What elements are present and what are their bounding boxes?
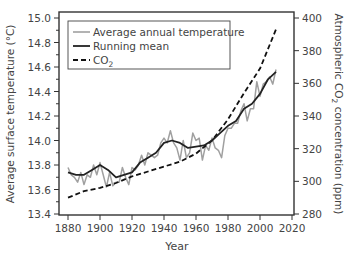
- right-tick-label: 340: [302, 110, 322, 122]
- x-tick-label: 1880: [55, 222, 82, 234]
- x-tick-label: 1900: [87, 222, 114, 234]
- x-axis-label: Year: [164, 240, 189, 253]
- x-tick-label: 1960: [183, 222, 210, 234]
- right-y-axis-label: Atmospheric CO2 concentration (ppm): [330, 14, 345, 215]
- x-tick-label: 2000: [247, 222, 274, 234]
- left-y-axis: 13.413.613.814.014.214.414.614.815.0: [28, 12, 59, 220]
- x-tick-label: 1920: [119, 222, 146, 234]
- legend-co2-text: CO: [93, 54, 109, 66]
- right-tick-label: 300: [302, 175, 322, 187]
- x-tick-label: 2020: [279, 222, 306, 234]
- right-label-part1: Atmospheric CO: [333, 14, 345, 99]
- left-tick-label: 14.8: [28, 37, 51, 49]
- right-tick-label: 360: [302, 77, 322, 89]
- x-tick-label: 1980: [215, 222, 242, 234]
- left-tick-label: 14.6: [28, 61, 52, 73]
- legend-label-running-mean: Running mean: [93, 40, 169, 52]
- left-tick-label: 14.2: [28, 110, 51, 122]
- right-tick-label: 280: [302, 208, 322, 220]
- right-tick-label: 400: [302, 12, 322, 24]
- left-tick-label: 14.0: [28, 135, 51, 147]
- x-axis: 18801900192019401960198020002020: [55, 215, 306, 234]
- left-tick-label: 13.6: [28, 184, 52, 196]
- left-tick-label: 13.8: [28, 159, 51, 171]
- series-running-mean: [68, 72, 276, 177]
- x-tick-label: 1940: [151, 222, 178, 234]
- series-annual-temperature: [68, 70, 276, 188]
- left-tick-label: 15.0: [28, 12, 51, 24]
- right-label-part2: concentration (ppm): [333, 103, 345, 214]
- right-tick-label: 320: [302, 143, 322, 155]
- legend-co2-subscript: 2: [109, 60, 114, 69]
- legend-label-annual: Average annual temperature: [93, 26, 245, 38]
- left-tick-label: 13.4: [28, 208, 52, 220]
- left-y-axis-label: Average surface temperature (°C): [4, 25, 16, 204]
- legend: Average annual temperature Running mean …: [68, 21, 245, 69]
- left-tick-label: 14.4: [28, 86, 52, 98]
- right-tick-label: 380: [302, 45, 322, 57]
- temperature-co2-chart: 13.413.613.814.014.214.414.614.815.0 280…: [0, 0, 347, 262]
- right-y-axis: 280300320340360380400: [294, 12, 322, 220]
